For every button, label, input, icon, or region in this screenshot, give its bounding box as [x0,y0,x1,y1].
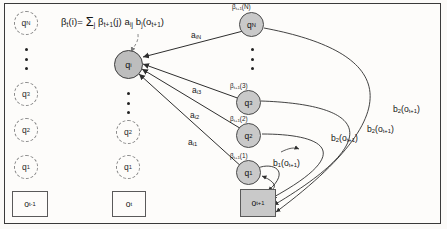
state-label-sub: 2 [129,129,132,135]
a-sub: i3 [197,89,201,95]
b-arg-open: (o [401,104,409,114]
transition-label-i3: ai3 [192,85,201,95]
a-sub: i1 [193,141,197,147]
state-node-t1-q2[interactable]: q2 [14,118,38,142]
b-arg-sub: t+1 [409,108,417,114]
transition-label-i2: ai2 [190,110,199,120]
transition-label-iN: aiN [191,30,201,40]
ellipsis-t [126,92,130,114]
state-label-sub: N [252,22,256,28]
observation-label-sub: t [131,201,133,207]
equation-lhs-arg: (i)= [68,16,82,27]
state-label-sub: 1 [249,170,252,176]
equation-term-b-arg-sub: t+1 [151,21,160,28]
state-label-sub: 2 [249,133,252,139]
emission-label-b2-c: b2(ot+1) [393,104,420,114]
b-arg-close: ) [355,133,358,143]
equation-term-b-close: ) [161,16,164,27]
dot [25,67,28,70]
dot [251,67,254,70]
observation-box-t[interactable]: ot [112,191,146,217]
state-label-sub: 2 [27,127,30,133]
figure-canvas: βt(i)= Σj βt+1(j) aij bj(ot+1) qN q3 q2 … [0,0,447,229]
ellipsis-t2 [250,48,254,70]
b-arg-sub: t+1 [289,162,297,168]
equation-term-beta-arg: (j) [113,16,122,27]
state-node-t1-q3[interactable]: q3 [14,82,38,106]
transition-label-i1: ai1 [188,137,197,147]
beta-arg: (2) [240,115,248,122]
emission-label-b1: b1(ot+1) [273,158,300,168]
state-label-sub: 3 [249,100,252,106]
dot [251,48,254,51]
beta-label-1: βt+1(1) [230,152,248,160]
state-node-t2-q1[interactable]: q1 [236,160,261,185]
a-sub: iN [196,34,201,40]
observation-label-sub: t+1 [256,200,264,206]
b-arg-close: ) [297,158,300,168]
equation-sigma-sub: j [94,21,96,28]
b-arg-open: (o [375,124,383,134]
state-node-t-q2[interactable]: q2 [116,120,140,144]
observation-label-sub: t-1 [29,201,36,207]
equation-term-beta-sub: t+1 [104,21,113,28]
beta-label-3: βt+1(3) [230,82,248,90]
state-label-sub: 1 [129,164,132,170]
b-arg-open: (o [281,158,289,168]
state-label-sub: N [26,20,30,26]
state-label-sub: 3 [27,91,30,97]
beta-arg: (1) [240,152,248,159]
equation-term-a-sub: ij [130,21,133,28]
b-arg-close: ) [417,104,420,114]
ellipsis-t1 [24,48,28,70]
figure-frame [4,3,441,224]
b-arg-sub: t+1 [347,137,355,143]
emission-label-b2-a: b2(ot+1) [331,133,358,143]
state-node-t-qi[interactable]: qi [114,50,143,79]
observation-box-t-minus-1[interactable]: ot-1 [12,191,48,217]
beta-arg: (N) [242,3,251,10]
state-node-t-q1[interactable]: q1 [116,155,140,179]
dot [127,102,130,105]
beta-label-N: βt+1(N) [232,3,251,11]
state-node-t2-q2[interactable]: q2 [236,123,261,148]
state-label-sub: i [130,61,131,68]
b-arg-open: (o [339,133,347,143]
state-node-t2-qN[interactable]: qN [239,12,264,37]
state-node-t2-q3[interactable]: q3 [236,90,261,115]
dot [25,58,28,61]
dot [127,111,130,114]
b-arg-close: ) [391,124,394,134]
dot [127,92,130,95]
observation-box-t-plus-1[interactable]: ot+1 [240,189,276,217]
dot [25,48,28,51]
emission-label-b2-b: b2(ot+1) [367,124,394,134]
b-arg-sub: t+1 [383,128,391,134]
state-node-t1-qN[interactable]: qN [14,11,38,35]
beta-equation: βt(i)= Σj βt+1(j) aij bj(ot+1) [61,14,164,29]
state-node-t1-q1[interactable]: q1 [14,155,38,179]
beta-label-2: βt+1(2) [230,115,248,123]
beta-arg: (3) [240,82,248,89]
state-label-sub: 1 [27,164,30,170]
a-sub: i2 [195,114,199,120]
equation-sigma: Σ [86,14,94,29]
dot [251,58,254,61]
